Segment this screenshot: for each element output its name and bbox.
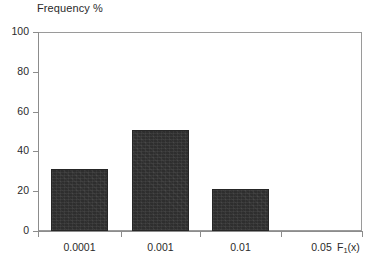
x-tick-mark-1 <box>121 231 122 237</box>
y-tick-label: 60 <box>0 105 29 117</box>
x-axis-title: F1(x) <box>337 241 360 253</box>
x-tick-mark-3 <box>281 231 282 237</box>
bar-0.01 <box>212 189 269 231</box>
y-tick-mark <box>33 191 39 192</box>
y-tick-20: 20 <box>0 191 39 192</box>
y-axis-title: Frequency % <box>37 2 103 14</box>
y-tick-mark <box>33 32 39 33</box>
x-axis-title-subscript: 1 <box>343 246 347 255</box>
y-tick-label: 100 <box>0 25 29 37</box>
x-tick-mark-2 <box>200 231 201 237</box>
x-axis-title-tail: (x) <box>348 241 360 253</box>
y-tick-80: 80 <box>0 72 39 73</box>
y-tick-label: 80 <box>0 65 29 77</box>
x-tick-label-0.001: 0.001 <box>121 241 201 253</box>
y-tick-mark <box>33 112 39 113</box>
x-tick-label-0.0001: 0.0001 <box>40 241 120 253</box>
x-tick-mark-4 <box>362 231 363 237</box>
x-tick-mark-0 <box>38 231 39 237</box>
y-tick-label: 20 <box>0 184 29 196</box>
y-tick-label: 0 <box>0 224 29 236</box>
y-tick-mark <box>33 72 39 73</box>
y-tick-100: 100 <box>0 32 39 33</box>
y-tick-40: 40 <box>0 151 39 152</box>
y-axis-line <box>38 32 39 232</box>
y-tick-mark <box>33 151 39 152</box>
x-tick-label-0.01: 0.01 <box>201 241 281 253</box>
bar-0.0001 <box>51 169 108 231</box>
y-tick-60: 60 <box>0 112 39 113</box>
bar-0.001 <box>132 130 189 231</box>
y-tick-label: 40 <box>0 144 29 156</box>
histogram-figure: Frequency % 020406080100 0.00010.0010.01… <box>0 0 379 274</box>
y-tick-0: 0 <box>0 231 39 232</box>
